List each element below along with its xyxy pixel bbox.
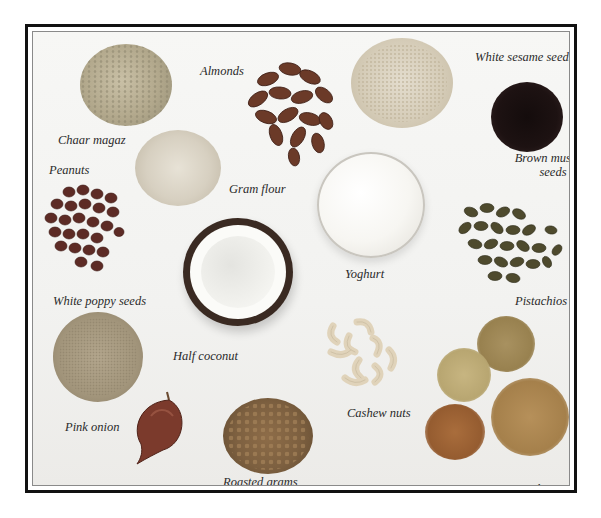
yoghurt-bowl [317,152,425,258]
lentils-heap-3 [425,404,485,460]
label-half-coconut: Half coconut [173,349,238,363]
label-roasted-grams: Roasted grams [223,475,298,486]
lentils-heap-2 [437,348,491,402]
pistachios-pile [451,200,567,290]
label-gram-flour: Gram flour [229,182,286,196]
label-white-poppy-seeds: White poppy seeds [53,294,146,308]
label-peanuts: Peanuts [49,163,89,177]
lentils-heap-4 [491,378,569,456]
white-sesame-seeds-heap [351,38,453,128]
label-lentils: Lentils [511,482,545,486]
label-yoghurt: Yoghurt [345,267,384,281]
pink-onion [127,388,187,468]
label-chaar-magaz: Chaar magaz [58,133,126,147]
label-almonds: Almonds [200,64,244,78]
photo-area: Chaar magaz [32,31,570,486]
lentils-group [425,314,570,464]
chaar-magaz-heap [80,44,172,126]
peanuts-pile [39,180,131,276]
brown-mustard-seeds-heap [491,82,563,152]
picture-frame: Chaar magaz [25,24,577,493]
half-coconut [183,218,293,326]
label-white-sesame-seeds: White sesame seeds [475,50,570,64]
gram-flour-heap [135,130,221,206]
cashew-nuts-pile [319,316,409,398]
label-pistachios: Pistachios [515,294,567,308]
roasted-grams-pile [223,398,313,474]
label-pink-onion: Pink onion [65,420,120,434]
label-brown-mustard-seeds: Brown mustard seeds [513,151,570,179]
label-cashew-nuts: Cashew nuts [347,406,411,420]
